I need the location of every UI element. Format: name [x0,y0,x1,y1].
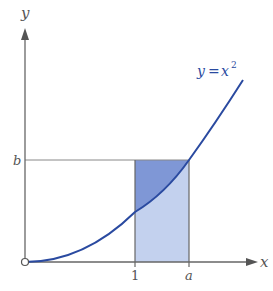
b-tick-label: b [13,153,21,168]
x-tick-a-label: a [185,268,193,283]
svg-text:y: y [196,63,206,79]
origin-marker [22,259,29,266]
y-axis-arrow-icon [21,28,29,40]
svg-text:=: = [208,63,220,79]
x-axis-label: x [260,253,269,271]
svg-text:2: 2 [231,60,237,70]
y-axis-label: y [20,4,30,22]
curve-equation-label: y = x 2 [196,60,237,79]
x-tick-1-label: 1 [131,268,139,283]
svg-text:x: x [221,63,229,79]
parabola-curve [25,80,243,262]
integral-diagram: y x b 1 a y = x 2 [0,0,273,291]
x-axis-arrow-icon [246,258,258,266]
